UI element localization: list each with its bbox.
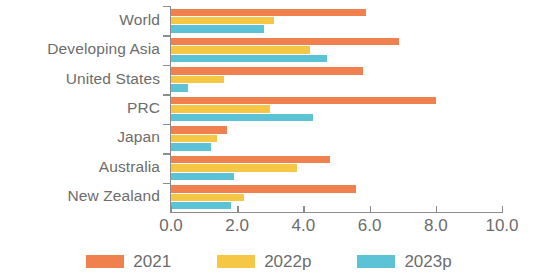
- bar: [171, 173, 234, 180]
- category-label: Developing Asia: [0, 40, 160, 58]
- bar: [171, 76, 224, 83]
- bar: [171, 143, 211, 150]
- bar: [171, 25, 264, 32]
- bar: [171, 84, 188, 91]
- value-tick: [370, 206, 371, 213]
- category-label: Australia: [0, 158, 160, 176]
- bar: [171, 135, 217, 142]
- category-tick: [163, 65, 170, 66]
- legend-item: 2021: [86, 253, 171, 270]
- value-tick-label: 6.0: [340, 216, 400, 236]
- bar: [171, 185, 356, 192]
- bar: [171, 17, 274, 24]
- bar: [171, 105, 270, 112]
- bar: [171, 202, 231, 209]
- bar: [171, 126, 227, 133]
- legend-label: 2023p: [404, 253, 451, 270]
- category-label: World: [0, 11, 160, 29]
- legend-label: 2022p: [264, 253, 311, 270]
- legend-item: 2022p: [217, 253, 311, 270]
- bar-chart: WorldDeveloping AsiaUnited StatesPRCJapa…: [0, 0, 538, 276]
- value-tick-label: 8.0: [406, 216, 466, 236]
- category-tick: [163, 6, 170, 7]
- value-tick: [436, 206, 437, 213]
- category-label: Japan: [0, 128, 160, 146]
- category-tick: [163, 94, 170, 95]
- bar: [171, 97, 436, 104]
- bar: [171, 114, 313, 121]
- value-tick: [502, 206, 503, 213]
- bar: [171, 9, 366, 16]
- category-tick: [163, 153, 170, 154]
- bar: [171, 194, 244, 201]
- bar: [171, 164, 297, 171]
- legend-label: 2021: [133, 253, 171, 270]
- legend-swatch: [86, 255, 124, 268]
- value-tick: [237, 206, 238, 213]
- category-label: New Zealand: [0, 187, 160, 205]
- legend-swatch: [357, 255, 395, 268]
- legend-item: 2023p: [357, 253, 451, 270]
- value-tick-label: 0.0: [141, 216, 201, 236]
- category-tick: [163, 124, 170, 125]
- category-tick: [163, 35, 170, 36]
- plot-area: [171, 6, 502, 212]
- value-tick-label: 4.0: [273, 216, 333, 236]
- value-tick: [171, 206, 172, 213]
- legend-swatch: [217, 255, 255, 268]
- value-axis-line: [170, 212, 503, 213]
- value-tick-label: 10.0: [472, 216, 532, 236]
- bar: [171, 46, 310, 53]
- category-axis-labels: WorldDeveloping AsiaUnited StatesPRCJapa…: [0, 0, 160, 220]
- category-label: PRC: [0, 99, 160, 117]
- bar: [171, 156, 330, 163]
- bar: [171, 55, 327, 62]
- value-tick: [303, 206, 304, 213]
- value-tick-label: 2.0: [207, 216, 267, 236]
- chart-legend: 20212022p2023p: [0, 249, 538, 273]
- category-label: United States: [0, 70, 160, 88]
- bar: [171, 38, 399, 45]
- category-tick: [163, 183, 170, 184]
- bar: [171, 67, 363, 74]
